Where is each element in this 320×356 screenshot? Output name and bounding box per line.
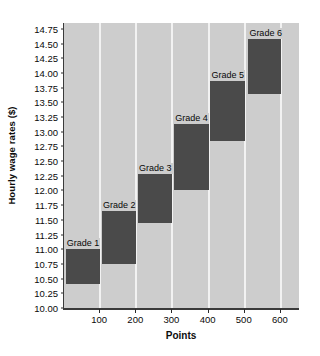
y-tick-label: 13.50: [34, 97, 58, 108]
y-tick-label: 12.25: [34, 170, 58, 181]
x-tick-mark: [171, 309, 172, 313]
y-tick-label: 13.75: [34, 82, 58, 93]
y-tick-label: 13.25: [34, 112, 58, 123]
x-tick-label: 500: [236, 314, 252, 325]
y-tick-label: 11.75: [35, 200, 58, 211]
bar-label-3: Grade 3: [138, 163, 173, 174]
y-tick-label: 14.75: [34, 23, 58, 34]
bar-4: [174, 124, 208, 190]
bar-label-5: Grade 5: [210, 70, 245, 81]
x-tick-label: 400: [200, 314, 216, 325]
y-axis-tick-labels: 10.0010.2510.5010.7511.0011.2511.5011.75…: [22, 0, 61, 356]
plot-area: Grade 1Grade 2Grade 3Grade 4Grade 5Grade…: [64, 23, 299, 308]
x-tick-mark: [208, 309, 209, 313]
bar-2: [102, 211, 136, 264]
x-tick-mark: [135, 309, 136, 313]
bar-label-2: Grade 2: [102, 200, 137, 211]
x-tick-mark: [280, 309, 281, 313]
gridline-vertical: [135, 23, 137, 308]
bar-label-1: Grade 1: [66, 238, 101, 249]
bar-label-6: Grade 6: [248, 28, 283, 39]
y-tick-label: 11.25: [35, 229, 58, 240]
plot-frame: Grade 1Grade 2Grade 3Grade 4Grade 5Grade…: [63, 23, 299, 308]
y-tick-label: 14.25: [34, 53, 58, 64]
x-tick-label: 100: [91, 314, 107, 325]
bar-1: [66, 249, 100, 284]
y-tick-label: 12.00: [34, 185, 58, 196]
y-tick-label: 12.50: [34, 156, 58, 167]
x-axis-title: Points: [63, 330, 299, 341]
y-tick-label: 13.00: [34, 126, 58, 137]
y-tick-label: 11.50: [35, 214, 58, 225]
x-tick-label: 600: [272, 314, 288, 325]
bar-label-4: Grade 4: [174, 113, 209, 124]
y-tick-label: 10.00: [34, 303, 58, 314]
y-tick-label: 10.25: [34, 288, 58, 299]
bar-3: [138, 174, 172, 223]
y-tick-label: 10.50: [34, 273, 58, 284]
y-axis-title-text: Hourly wage rates ($): [6, 106, 17, 204]
y-tick-label: 14.50: [34, 38, 58, 49]
y-tick-label: 10.75: [34, 258, 58, 269]
bar-6: [248, 39, 281, 93]
wage-rate-chart: Hourly wage rates ($) 10.0010.2510.5010.…: [0, 0, 320, 356]
y-tick-label: 14.00: [34, 67, 58, 78]
x-tick-label: 300: [164, 314, 180, 325]
x-tick-mark: [99, 309, 100, 313]
bar-5: [210, 81, 244, 141]
y-tick-label: 11.00: [35, 244, 58, 255]
gridline-vertical: [244, 23, 246, 308]
y-axis-title: Hourly wage rates ($): [0, 0, 22, 310]
x-tick-label: 200: [127, 314, 143, 325]
y-tick-label: 12.75: [34, 141, 58, 152]
x-tick-mark: [244, 309, 245, 313]
